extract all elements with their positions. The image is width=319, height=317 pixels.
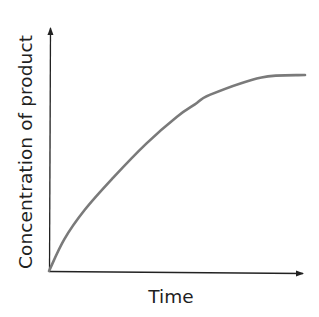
y-axis	[50, 28, 51, 272]
x-axis	[49, 272, 303, 274]
y-axis-label: Concentration of product	[15, 35, 36, 269]
data-curve	[49, 75, 305, 271]
chart-canvas	[0, 0, 319, 317]
x-axis-label: Time	[148, 286, 193, 307]
